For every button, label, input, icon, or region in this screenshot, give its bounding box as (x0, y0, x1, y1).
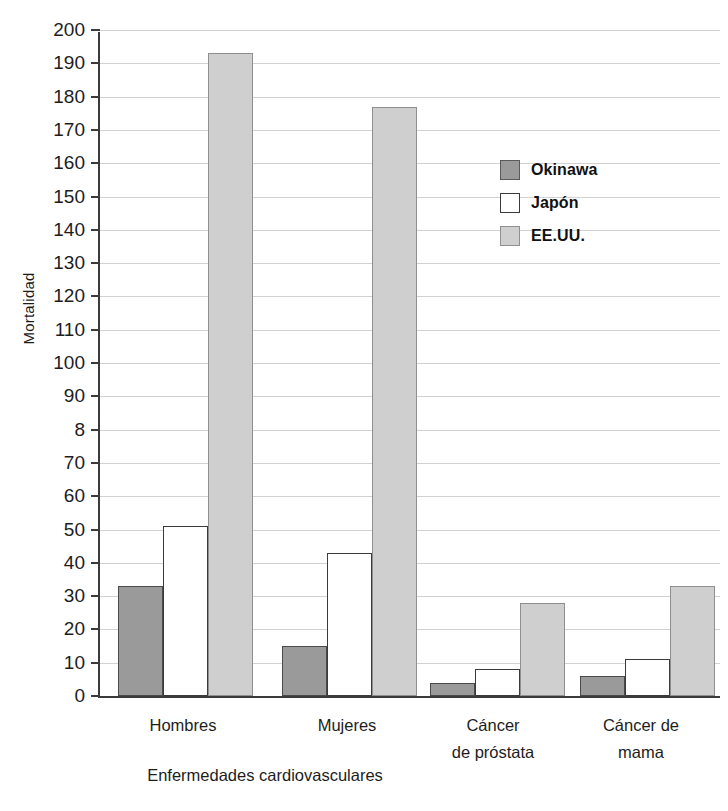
y-axis-tick-label: 60 (64, 485, 85, 507)
y-axis-tick-mark (91, 529, 100, 531)
x-axis-label-line: mama (556, 739, 726, 766)
y-axis-tick-label: 50 (64, 519, 85, 541)
y-axis-tick-mark (91, 62, 100, 64)
legend-label: Okinawa (531, 161, 598, 179)
gridline (100, 30, 720, 31)
legend-item-japon[interactable]: Japón (500, 193, 598, 213)
x-axis-label-line: Mujeres (262, 712, 432, 739)
y-axis-tick-label: 150 (53, 186, 85, 208)
bar-group (580, 32, 715, 696)
y-axis-tick-mark (91, 495, 100, 497)
y-axis-tick-mark (91, 295, 100, 297)
x-axis-tick-label: Cáncer demama (556, 712, 726, 766)
y-axis-tick-label: 120 (53, 285, 85, 307)
y-axis-tick-mark (91, 695, 100, 697)
y-axis-tick-mark (91, 262, 100, 264)
x-axis-label-line: Cáncer (408, 712, 578, 739)
y-axis-tick-label: 130 (53, 252, 85, 274)
legend-label: Japón (531, 194, 579, 212)
legend-item-okinawa[interactable]: Okinawa (500, 160, 598, 180)
bar-chart-figure: Mortalidad 20019018017016015014013012011… (0, 0, 728, 811)
bar-japon (327, 553, 372, 696)
bar-okinawa (282, 646, 327, 696)
bar-eeuu (520, 603, 565, 696)
y-axis-tick-mark (91, 462, 100, 464)
bar-group (118, 32, 253, 696)
y-axis-tick-label: 8 (74, 419, 85, 441)
y-axis-tick-mark (91, 628, 100, 630)
y-axis-tick-mark (91, 29, 100, 31)
legend-swatch-icon (500, 226, 520, 246)
legend-item-eeuu[interactable]: EE.UU. (500, 226, 598, 246)
chart-legend: OkinawaJapónEE.UU. (500, 160, 598, 246)
y-axis-tick-label: 190 (53, 52, 85, 74)
y-axis-tick-label: 30 (64, 585, 85, 607)
y-axis-tick-mark (91, 96, 100, 98)
bar-japon (163, 526, 208, 696)
y-axis-tick-label: 180 (53, 86, 85, 108)
x-axis-tick-label: Cáncerde próstata (408, 712, 578, 766)
bar-okinawa (580, 676, 625, 696)
x-axis-tick-label: Hombres (98, 712, 268, 739)
y-axis-tick-mark (91, 562, 100, 564)
bar-japon (475, 669, 520, 696)
y-axis-tick-mark (91, 362, 100, 364)
y-axis-tick-mark (91, 662, 100, 664)
y-axis-tick-label: 40 (64, 552, 85, 574)
bar-eeuu (372, 107, 417, 696)
y-axis-tick-label: 20 (64, 618, 85, 640)
y-axis-tick-label: 10 (64, 652, 85, 674)
legend-swatch-icon (500, 193, 520, 213)
bar-japon (625, 659, 670, 696)
y-axis-tick-mark (91, 162, 100, 164)
y-axis-tick-mark (91, 129, 100, 131)
y-axis-tick-mark (91, 196, 100, 198)
x-axis-group-label: Enfermedades cardiovasculares (98, 766, 432, 785)
bar-okinawa (118, 586, 163, 696)
y-axis-tick-mark (91, 429, 100, 431)
y-axis-tick-label: 140 (53, 219, 85, 241)
y-axis-tick-mark (91, 395, 100, 397)
y-axis-title: Mortalidad (20, 229, 37, 389)
x-axis-tick-label: Mujeres (262, 712, 432, 739)
x-axis-label-line: Cáncer de (556, 712, 726, 739)
legend-swatch-icon (500, 160, 520, 180)
y-axis-tick-mark (91, 329, 100, 331)
y-axis-tick-label: 90 (64, 385, 85, 407)
y-axis-tick-label: 100 (53, 352, 85, 374)
plot-area: 2001901801701601501401301201101009087060… (98, 32, 720, 698)
y-axis-tick-label: 160 (53, 152, 85, 174)
x-axis-label-line: de próstata (408, 739, 578, 766)
bar-group (282, 32, 417, 696)
x-axis-label-line: Hombres (98, 712, 268, 739)
y-axis-tick-label: 70 (64, 452, 85, 474)
bar-eeuu (670, 586, 715, 696)
y-axis-tick-label: 200 (53, 19, 85, 41)
y-axis-tick-label: 0 (74, 685, 85, 707)
bar-okinawa (430, 683, 475, 696)
y-axis-tick-label: 170 (53, 119, 85, 141)
y-axis-tick-mark (91, 595, 100, 597)
bar-eeuu (208, 53, 253, 696)
legend-label: EE.UU. (531, 227, 585, 245)
bar-series-container (100, 32, 720, 696)
y-axis-tick-mark (91, 229, 100, 231)
y-axis-tick-label: 110 (55, 319, 85, 341)
bar-group (430, 32, 565, 696)
